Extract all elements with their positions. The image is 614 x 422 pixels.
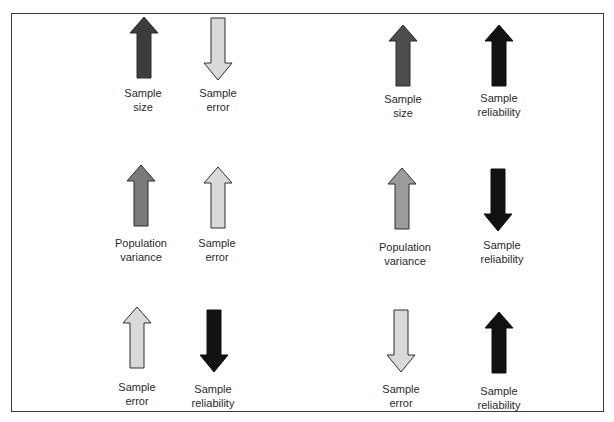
label-sample-reliability: Sample reliability	[447, 238, 557, 266]
arrow-down-icon	[203, 17, 233, 81]
arrow-up-icon	[484, 24, 514, 88]
arrow-up-icon	[122, 306, 152, 370]
label-line: Sample	[444, 384, 554, 398]
label-line: Sample	[444, 91, 554, 105]
label-line: reliability	[444, 398, 554, 412]
arrow-down-icon	[483, 168, 513, 232]
label-line: error	[346, 396, 456, 410]
label-line: reliability	[158, 396, 268, 410]
label-sample-size: Sample size	[348, 92, 458, 120]
label-line: Sample	[158, 382, 268, 396]
diagram-frame	[11, 13, 604, 412]
label-sample-error: Sample error	[346, 382, 456, 410]
label-sample-reliability: Sample reliability	[158, 382, 268, 410]
arrow-up-icon	[484, 311, 514, 375]
arrow-up-icon	[203, 166, 233, 230]
label-sample-error: Sample error	[162, 236, 272, 264]
label-line: error	[162, 250, 272, 264]
label-line: Population	[350, 240, 460, 254]
label-sample-error: Sample error	[163, 86, 273, 114]
label-line: reliability	[444, 105, 554, 119]
arrow-up-icon	[387, 167, 417, 231]
arrow-down-icon	[386, 309, 416, 373]
label-line: size	[348, 106, 458, 120]
label-line: reliability	[447, 252, 557, 266]
arrow-up-icon	[129, 16, 159, 80]
label-line: Sample	[346, 382, 456, 396]
label-line: Sample	[162, 236, 272, 250]
label-line: Sample	[447, 238, 557, 252]
label-sample-reliability: Sample reliability	[444, 91, 554, 119]
arrow-up-icon	[126, 164, 156, 228]
arrow-up-icon	[388, 24, 418, 88]
label-line: Sample	[163, 86, 273, 100]
label-population-variance: Population variance	[350, 240, 460, 268]
arrow-down-icon	[199, 309, 229, 373]
label-line: Sample	[348, 92, 458, 106]
label-line: error	[163, 100, 273, 114]
label-sample-reliability: Sample reliability	[444, 384, 554, 412]
label-line: variance	[350, 254, 460, 268]
